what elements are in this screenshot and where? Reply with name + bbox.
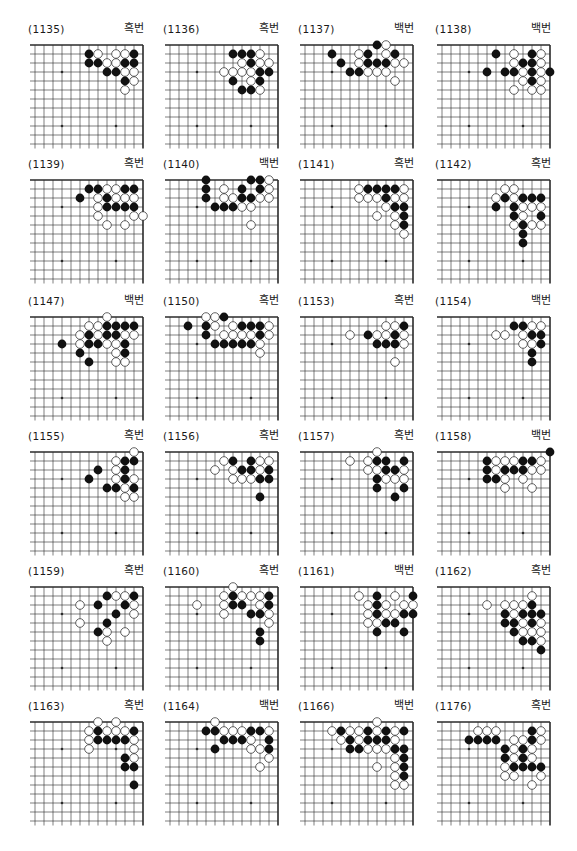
black-stone-icon — [112, 322, 121, 331]
white-stone-icon — [382, 745, 391, 754]
star-point-icon — [385, 397, 388, 400]
black-stone-icon — [103, 484, 112, 493]
black-stone-icon — [483, 466, 492, 475]
white-stone-icon — [528, 754, 537, 763]
star-point-icon — [522, 532, 525, 535]
black-stone-icon — [546, 68, 555, 77]
problem-header: (1158) 백번 — [435, 429, 551, 443]
problem-number: (1161) — [298, 564, 335, 578]
white-stone-icon — [112, 718, 121, 727]
white-stone-icon — [130, 212, 139, 221]
black-stone-icon — [94, 340, 103, 349]
white-stone-icon — [355, 194, 364, 203]
white-stone-icon — [391, 592, 400, 601]
white-stone-icon — [519, 77, 528, 86]
white-stone-icon — [519, 212, 528, 221]
black-stone-icon — [130, 484, 139, 493]
white-stone-icon — [220, 185, 229, 194]
go-problem: (1176) 흑번 — [435, 699, 555, 827]
go-problem: (1158) 백번 — [435, 429, 555, 557]
star-point-icon — [331, 397, 334, 400]
white-stone-icon — [510, 772, 519, 781]
white-stone-icon — [519, 68, 528, 77]
star-point-icon — [331, 478, 334, 481]
black-stone-icon — [373, 185, 382, 194]
black-stone-icon — [85, 185, 94, 194]
white-stone-icon — [193, 601, 202, 610]
black-stone-icon — [265, 68, 274, 77]
star-point-icon — [196, 71, 199, 74]
white-stone-icon — [85, 322, 94, 331]
go-board-diagram — [165, 175, 283, 284]
black-stone-icon — [328, 50, 337, 59]
white-stone-icon — [537, 50, 546, 59]
white-stone-icon — [501, 475, 510, 484]
black-stone-icon — [121, 185, 130, 194]
white-stone-icon — [355, 727, 364, 736]
go-problem: (1166) 백번 — [298, 699, 418, 827]
white-stone-icon — [528, 592, 537, 601]
black-stone-icon — [94, 736, 103, 745]
star-point-icon — [196, 260, 199, 263]
black-stone-icon — [85, 475, 94, 484]
white-stone-icon — [409, 601, 418, 610]
white-stone-icon — [130, 493, 139, 502]
white-stone-icon — [130, 194, 139, 203]
problem-header: (1138) 백번 — [435, 22, 551, 36]
white-stone-icon — [501, 331, 510, 340]
black-stone-icon — [537, 212, 546, 221]
go-problem: (1159) 흑번 — [28, 564, 148, 692]
white-stone-icon — [112, 59, 121, 68]
white-stone-icon — [229, 322, 238, 331]
star-point-icon — [196, 748, 199, 751]
white-stone-icon — [400, 59, 409, 68]
problem-number: (1139) — [28, 157, 65, 171]
black-stone-icon — [229, 50, 238, 59]
star-point-icon — [522, 125, 525, 128]
white-stone-icon — [112, 340, 121, 349]
go-board-diagram — [300, 582, 418, 691]
black-stone-icon — [247, 457, 256, 466]
star-point-icon — [61, 125, 64, 128]
white-stone-icon — [355, 592, 364, 601]
problem-number: (1159) — [28, 564, 65, 578]
black-stone-icon — [501, 745, 510, 754]
white-stone-icon — [537, 727, 546, 736]
black-stone-icon — [112, 736, 121, 745]
white-stone-icon — [247, 331, 256, 340]
star-point-icon — [468, 397, 471, 400]
white-stone-icon — [391, 754, 400, 763]
black-stone-icon — [519, 59, 528, 68]
black-stone-icon — [112, 484, 121, 493]
star-point-icon — [61, 397, 64, 400]
black-stone-icon — [130, 727, 139, 736]
white-stone-icon — [537, 772, 546, 781]
black-stone-icon — [346, 745, 355, 754]
white-stone-icon — [94, 50, 103, 59]
white-stone-icon — [121, 331, 130, 340]
go-board-diagram — [300, 717, 418, 826]
problem-number: (1157) — [298, 429, 335, 443]
problem-header: (1161) 백번 — [298, 564, 414, 578]
white-stone-icon — [130, 736, 139, 745]
white-stone-icon — [94, 331, 103, 340]
go-board-diagram — [165, 717, 283, 826]
white-stone-icon — [238, 592, 247, 601]
black-stone-icon — [256, 185, 265, 194]
black-stone-icon — [130, 185, 139, 194]
white-stone-icon — [519, 601, 528, 610]
white-stone-icon — [510, 736, 519, 745]
to-play-label: 백번 — [394, 699, 414, 713]
black-stone-icon — [247, 194, 256, 203]
black-stone-icon — [202, 176, 211, 185]
white-stone-icon — [202, 313, 211, 322]
white-stone-icon — [528, 221, 537, 230]
problem-number: (1137) — [298, 22, 335, 36]
white-stone-icon — [382, 610, 391, 619]
black-stone-icon — [373, 457, 382, 466]
black-stone-icon — [94, 185, 103, 194]
white-stone-icon — [247, 745, 256, 754]
white-stone-icon — [400, 331, 409, 340]
white-stone-icon — [391, 727, 400, 736]
to-play-label: 흑번 — [124, 429, 144, 443]
